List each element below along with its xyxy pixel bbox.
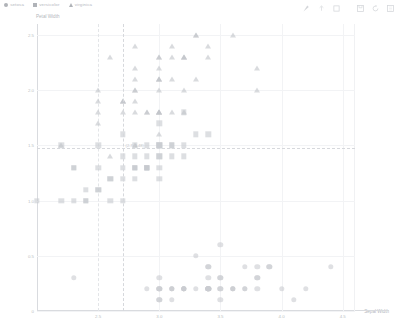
data-point-virginica[interactable] <box>193 33 199 38</box>
data-point-virginica[interactable] <box>156 88 162 93</box>
data-point-setosa[interactable] <box>218 275 223 280</box>
data-point-virginica[interactable] <box>132 44 138 49</box>
help-icon[interactable] <box>386 4 395 13</box>
data-point-virginica[interactable] <box>132 66 138 71</box>
data-point-virginica[interactable] <box>132 110 138 115</box>
data-point-versicolor[interactable] <box>132 154 137 159</box>
legend-item-versicolor[interactable]: versicolor <box>33 2 59 7</box>
data-point-virginica[interactable] <box>156 55 162 60</box>
data-point-virginica[interactable] <box>169 44 175 49</box>
gridline-vertical <box>282 24 283 311</box>
box-select-icon[interactable] <box>317 4 326 13</box>
data-point-virginica[interactable] <box>181 110 187 115</box>
save-icon[interactable] <box>356 4 365 13</box>
data-point-setosa[interactable] <box>218 242 223 247</box>
data-point-versicolor[interactable] <box>95 165 100 170</box>
data-point-virginica[interactable] <box>169 55 175 60</box>
data-point-setosa[interactable] <box>291 297 296 302</box>
data-point-virginica[interactable] <box>132 99 138 104</box>
data-point-versicolor[interactable] <box>144 154 149 159</box>
data-point-setosa[interactable] <box>144 286 149 291</box>
data-point-setosa[interactable] <box>206 275 211 280</box>
data-point-setosa[interactable] <box>206 264 211 269</box>
data-point-setosa[interactable] <box>242 264 247 269</box>
data-point-setosa[interactable] <box>279 286 284 291</box>
data-point-versicolor[interactable] <box>193 132 198 137</box>
data-point-virginica[interactable] <box>156 77 162 82</box>
data-point-setosa[interactable] <box>193 253 198 258</box>
pan-icon[interactable] <box>302 4 311 13</box>
data-point-setosa[interactable] <box>254 286 259 291</box>
data-point-setosa[interactable] <box>242 286 247 291</box>
data-point-setosa[interactable] <box>157 297 162 302</box>
data-point-virginica[interactable] <box>95 110 101 115</box>
data-point-virginica[interactable] <box>144 110 150 115</box>
data-point-setosa[interactable] <box>218 297 223 302</box>
y-axis-title: Petal Width <box>36 14 60 19</box>
data-point-virginica[interactable] <box>169 110 175 115</box>
data-point-setosa[interactable] <box>157 275 162 280</box>
data-point-versicolor[interactable] <box>59 198 64 203</box>
data-point-virginica[interactable] <box>156 110 162 115</box>
data-point-setosa[interactable] <box>181 286 186 291</box>
data-point-setosa[interactable] <box>230 286 235 291</box>
data-point-versicolor[interactable] <box>144 165 149 170</box>
data-point-versicolor[interactable] <box>181 154 186 159</box>
data-point-versicolor[interactable] <box>71 198 76 203</box>
crosshair-icon[interactable] <box>332 4 341 13</box>
data-point-setosa[interactable] <box>157 286 162 291</box>
legend-item-setosa[interactable]: setosa <box>4 2 24 7</box>
data-point-virginica[interactable] <box>95 121 101 126</box>
data-point-versicolor[interactable] <box>108 176 113 181</box>
data-point-versicolor[interactable] <box>95 187 100 192</box>
data-point-setosa[interactable] <box>169 297 174 302</box>
data-point-virginica[interactable] <box>156 66 162 71</box>
data-point-versicolor[interactable] <box>157 154 162 159</box>
gridline-vertical <box>343 24 344 311</box>
data-point-versicolor[interactable] <box>132 176 137 181</box>
reset-icon[interactable] <box>371 4 380 13</box>
data-point-virginica[interactable] <box>156 132 162 137</box>
data-point-virginica[interactable] <box>107 55 113 60</box>
data-point-versicolor[interactable] <box>157 121 162 126</box>
data-point-virginica[interactable] <box>205 44 211 49</box>
data-point-versicolor[interactable] <box>34 198 39 203</box>
data-point-setosa[interactable] <box>328 264 333 269</box>
data-point-virginica[interactable] <box>132 77 138 82</box>
data-point-virginica[interactable] <box>132 88 138 93</box>
data-point-versicolor[interactable] <box>71 165 76 170</box>
data-point-versicolor[interactable] <box>132 165 137 170</box>
data-point-versicolor[interactable] <box>206 132 211 137</box>
data-point-virginica[interactable] <box>169 77 175 82</box>
data-point-versicolor[interactable] <box>108 198 113 203</box>
data-point-virginica[interactable] <box>95 99 101 104</box>
chart-toolbar[interactable] <box>302 4 395 13</box>
data-point-setosa[interactable] <box>169 286 174 291</box>
data-point-setosa[interactable] <box>254 264 259 269</box>
data-point-virginica[interactable] <box>181 88 187 93</box>
legend-item-virginica[interactable]: virginica <box>69 2 93 7</box>
data-point-virginica[interactable] <box>254 66 260 71</box>
data-point-setosa[interactable] <box>267 264 272 269</box>
plot-area[interactable]: Petal Width Sepal Width 00.51.01.52.02.5… <box>37 24 355 311</box>
data-point-virginica[interactable] <box>254 88 260 93</box>
y-axis-tick-label: 0.5 <box>28 253 34 258</box>
data-point-virginica[interactable] <box>193 77 199 82</box>
data-point-versicolor[interactable] <box>169 154 174 159</box>
data-point-setosa[interactable] <box>254 275 259 280</box>
data-point-versicolor[interactable] <box>157 165 162 170</box>
data-point-setosa[interactable] <box>71 275 76 280</box>
data-point-virginica[interactable] <box>95 88 101 93</box>
data-point-setosa[interactable] <box>206 286 211 291</box>
data-point-virginica[interactable] <box>230 33 236 38</box>
data-point-setosa[interactable] <box>303 286 308 291</box>
data-point-versicolor[interactable] <box>83 198 88 203</box>
square-marker-icon <box>33 3 37 7</box>
data-point-versicolor[interactable] <box>83 187 88 192</box>
data-point-versicolor[interactable] <box>157 176 162 181</box>
data-point-virginica[interactable] <box>181 55 187 60</box>
data-point-virginica[interactable] <box>205 55 211 60</box>
data-point-setosa[interactable] <box>218 286 223 291</box>
data-point-virginica[interactable] <box>107 154 113 159</box>
data-point-setosa[interactable] <box>193 286 198 291</box>
